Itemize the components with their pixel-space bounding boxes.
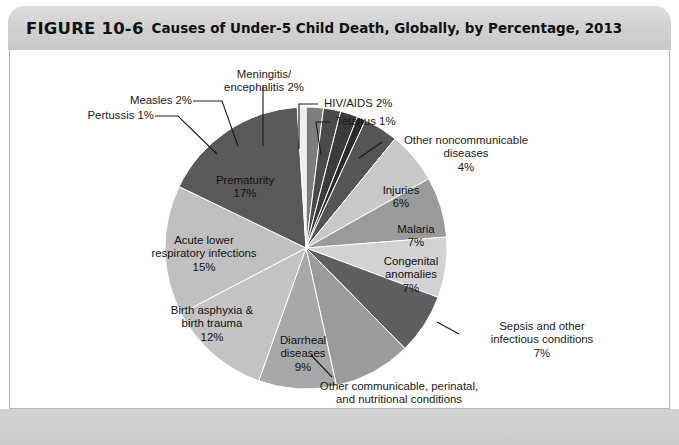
label-alri: Acute lower respiratory infections 15%: [128, 234, 280, 274]
label-alri-line3: 15%: [193, 261, 216, 273]
leader-line-sepsis: [437, 322, 459, 334]
label-congenital-line1: Congenital: [384, 255, 438, 267]
figure-number: FIGURE 10-6: [26, 19, 144, 38]
label-pertussis-text: Pertussis 1%: [88, 109, 154, 121]
label-congenital-line2: anomalies: [385, 268, 437, 280]
label-malaria-line2: 7%: [408, 236, 424, 248]
label-malaria-line1: Malaria: [397, 223, 434, 235]
label-other-comm-line1: Other communicable, perinatal,: [320, 380, 478, 392]
label-meningitis-line1: Meningitis/: [237, 68, 291, 80]
label-pertussis: Pertussis 1%: [34, 109, 154, 122]
label-birth-asphyxia: Birth asphyxia & birth trauma 12%: [148, 304, 276, 344]
label-asphyxia-line2: birth trauma: [182, 317, 243, 329]
label-tetanus: Tetanus 1%: [336, 115, 396, 128]
label-other-ncd-line3: 4%: [458, 161, 474, 173]
label-asphyxia-line3: 12%: [201, 331, 224, 343]
label-measles-text: Measles 2%: [130, 94, 192, 106]
label-congenital: Congenital anomalies 7%: [362, 255, 460, 295]
label-other-communicable: Other communicable, perinatal, and nutri…: [265, 380, 533, 409]
label-sepsis-line3: 7%: [534, 347, 550, 359]
label-asphyxia-line1: Birth asphyxia &: [171, 304, 253, 316]
figure-card: FIGURE 10-6 Causes of Under-5 Child Deat…: [0, 0, 679, 445]
label-tetanus-text: Tetanus 1%: [336, 115, 396, 127]
label-meningitis-line2: encephalitis 2%: [224, 81, 304, 93]
label-other-ncd-line2: diseases: [444, 147, 489, 159]
label-sepsis: Sepsis and other infectious conditions 7…: [464, 320, 620, 360]
label-other-noncommunicable: Other noncommunicable diseases 4%: [386, 134, 546, 174]
chart-plot-area: Meningitis/ encephalitis 2% Measles 2% P…: [9, 50, 670, 409]
label-prematurity-line1: Prematurity: [216, 174, 274, 186]
label-injuries-line2: 6%: [393, 197, 409, 209]
label-injuries-line1: Injuries: [383, 184, 420, 196]
label-alri-line2: respiratory infections: [151, 247, 256, 259]
label-injuries: Injuries 6%: [362, 184, 440, 211]
label-sepsis-line1: Sepsis and other: [499, 320, 585, 332]
label-other-comm-line2: and nutritional conditions: [336, 393, 462, 405]
label-hivaids: HIV/AIDS 2%: [324, 97, 392, 110]
label-diarrheal-line2: diseases: [281, 347, 326, 359]
label-malaria: Malaria 7%: [378, 223, 454, 250]
label-measles: Measles 2%: [74, 94, 192, 107]
label-prematurity-line2: 17%: [234, 187, 257, 199]
label-prematurity: Prematurity 17%: [190, 174, 300, 201]
label-congenital-line3: 7%: [403, 282, 419, 294]
label-meningitis: Meningitis/ encephalitis 2%: [200, 68, 328, 95]
figure-header: FIGURE 10-6 Causes of Under-5 Child Deat…: [8, 6, 671, 50]
page-bottom-band: [0, 409, 679, 445]
figure-title: Causes of Under-5 Child Death, Globally,…: [152, 20, 623, 36]
label-diarrheal-line3: 9%: [295, 361, 311, 373]
label-other-ncd-line1: Other noncommunicable: [404, 134, 528, 146]
label-sepsis-line2: infectious conditions: [491, 333, 594, 345]
label-alri-line1: Acute lower: [174, 234, 234, 246]
label-diarrheal-line1: Diarrheal: [280, 334, 326, 346]
label-hivaids-text: HIV/AIDS 2%: [324, 97, 392, 109]
